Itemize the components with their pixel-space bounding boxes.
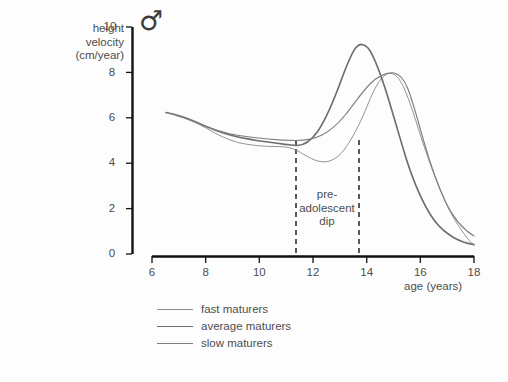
legend-swatch-average-maturers bbox=[157, 326, 193, 327]
chart-legend: fast maturers average maturers slow matu… bbox=[157, 301, 291, 352]
y-axis-label-line2: velocity bbox=[34, 36, 124, 50]
y-tick-marks bbox=[126, 27, 132, 254]
chart-figure: height velocity (cm/year) age (years) 0 … bbox=[0, 0, 508, 382]
x-axis-label: age (years) bbox=[404, 280, 462, 294]
x-tick-label-16: 16 bbox=[408, 266, 432, 278]
y-tick-label-0: 0 bbox=[104, 247, 120, 259]
y-tick-label-4: 4 bbox=[104, 156, 120, 168]
pre-adolescent-dip-annotation: pre- adolescent dip bbox=[297, 188, 357, 229]
x-tick-label-12: 12 bbox=[301, 266, 325, 278]
y-tick-label-8: 8 bbox=[104, 66, 120, 78]
y-tick-label-10: 10 bbox=[100, 20, 120, 32]
y-tick-label-6: 6 bbox=[104, 111, 120, 123]
y-axis-label-line3: (cm/year) bbox=[34, 49, 124, 63]
legend-item-slow-maturers: slow maturers bbox=[157, 335, 291, 352]
legend-item-fast-maturers: fast maturers bbox=[157, 301, 291, 318]
legend-label-slow-maturers: slow maturers bbox=[201, 335, 273, 352]
legend-swatch-slow-maturers bbox=[157, 343, 193, 344]
legend-label-average-maturers: average maturers bbox=[201, 318, 291, 335]
x-tick-label-6: 6 bbox=[142, 266, 162, 278]
annotation-line3: dip bbox=[297, 215, 357, 229]
legend-swatch-fast-maturers bbox=[157, 309, 193, 310]
x-tick-label-8: 8 bbox=[196, 266, 216, 278]
annotation-line1: pre- bbox=[297, 188, 357, 202]
x-tick-label-18: 18 bbox=[462, 266, 486, 278]
male-sex-symbol-icon: ♂ bbox=[139, 7, 163, 34]
y-tick-label-2: 2 bbox=[104, 202, 120, 214]
x-tick-label-10: 10 bbox=[247, 266, 271, 278]
annotation-line2: adolescent bbox=[297, 202, 357, 216]
legend-label-fast-maturers: fast maturers bbox=[201, 301, 268, 318]
legend-item-average-maturers: average maturers bbox=[157, 318, 291, 335]
x-tick-label-14: 14 bbox=[355, 266, 379, 278]
